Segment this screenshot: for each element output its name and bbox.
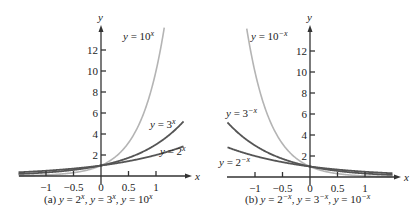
chart-panel-b: xy−1−0.500.5124681012y = 2−xy = 3−xy = 1…	[218, 11, 409, 206]
chart-panel-a: xy−1−0.500.5124681012y = 2xy = 3xy = 10x…	[19, 11, 201, 206]
x-tick-label: 0.5	[122, 181, 136, 193]
chart-caption: (b) y = 2−x, y = 3−x, y = 10−x	[245, 192, 371, 206]
y-tick-label: 10	[87, 65, 99, 77]
y-tick-label: 4	[302, 129, 308, 141]
y-tick-label: 4	[93, 128, 99, 140]
curve-label: y = 2−x	[218, 155, 251, 168]
curve-y-10-x	[247, 29, 393, 177]
chart-caption: (a) y = 2x, y = 3x, y = 10x	[44, 192, 153, 206]
curve-label: y = 3x	[149, 117, 176, 130]
y-tick-label: 8	[93, 86, 99, 98]
curve-label: y = 2x	[159, 144, 186, 157]
curve-label: y = 10−x	[250, 29, 288, 42]
x-axis-arrow-icon	[185, 174, 192, 179]
y-axis-arrow-icon	[99, 25, 104, 32]
y-tick-label: 2	[302, 150, 308, 162]
x-tick-label: −1	[40, 181, 52, 193]
y-tick-label: 6	[93, 107, 99, 119]
curve-label: y = 10x	[122, 29, 155, 42]
x-tick-label: 0	[98, 181, 104, 193]
y-tick-label: 8	[302, 87, 308, 99]
y-axis-label: y	[97, 11, 103, 23]
y-axis-arrow-icon	[308, 25, 313, 32]
x-tick-label: 1	[153, 181, 159, 193]
x-axis-label: x	[194, 170, 200, 182]
y-axis-label: y	[306, 11, 312, 23]
curve-label: y = 3−x	[225, 106, 258, 119]
y-tick-label: 10	[296, 66, 308, 78]
y-tick-label: 2	[93, 149, 99, 161]
y-tick-label: 12	[296, 45, 307, 57]
exponential-function-figure: xy−1−0.500.5124681012y = 2xy = 3xy = 10x…	[0, 0, 414, 219]
x-axis-arrow-icon	[394, 175, 401, 180]
y-tick-label: 6	[302, 108, 308, 120]
y-tick-label: 12	[87, 44, 98, 56]
x-axis-label: x	[403, 171, 409, 183]
